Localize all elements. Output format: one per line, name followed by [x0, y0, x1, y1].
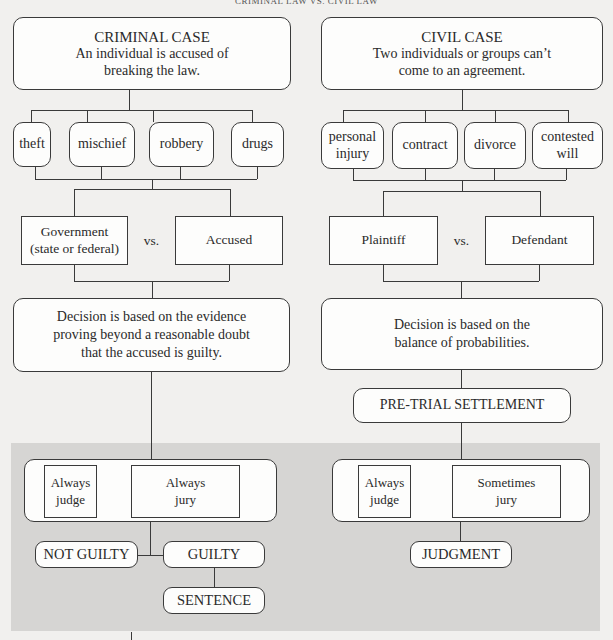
connector — [425, 169, 426, 180]
criminal-judge-box: Always judge — [44, 465, 97, 518]
pretrial-label: PRE-TRIAL SETTLEMENT — [380, 397, 545, 414]
outcome-not-guilty: NOT GUILTY — [35, 541, 138, 568]
judge-label: judge — [370, 492, 399, 508]
connector — [35, 167, 36, 179]
criminal-jury-box: Always jury — [131, 465, 240, 518]
civil-judge-box: Always judge — [358, 465, 411, 518]
connector — [180, 167, 181, 179]
connector — [353, 180, 566, 181]
connector — [31, 110, 252, 111]
connector — [461, 370, 462, 388]
connector — [568, 110, 569, 122]
connector — [214, 568, 215, 587]
connector — [74, 189, 230, 190]
outcome-sentence: SENTENCE — [163, 587, 265, 614]
category-theft: theft — [13, 122, 51, 167]
decision-text: balance of probabilities. — [395, 334, 530, 352]
category-label: personal — [329, 129, 376, 146]
connector — [460, 522, 461, 541]
connector — [383, 191, 540, 192]
civil-case-heading: CIVIL CASE — [421, 28, 503, 46]
connector — [353, 169, 354, 180]
civil-case-desc-2: come to an agreement. — [399, 63, 526, 80]
connector — [383, 191, 384, 216]
outcome-judgment: JUDGMENT — [410, 541, 512, 568]
category-label: theft — [19, 136, 45, 153]
decision-text: that the accused is guilty. — [81, 344, 222, 362]
outcome-label: JUDGMENT — [422, 546, 500, 563]
connector — [461, 423, 462, 459]
connector — [152, 179, 153, 189]
connector — [35, 179, 257, 180]
connector — [383, 265, 384, 281]
party-defendant: Defendant — [485, 216, 594, 265]
connector — [152, 281, 153, 298]
party-label: Government — [41, 224, 108, 241]
category-contract: contract — [392, 122, 458, 169]
criminal-decision-box: Decision is based on the evidence provin… — [13, 298, 290, 372]
category-personal-injury: personal injury — [321, 122, 384, 169]
category-robbery: robbery — [149, 122, 214, 167]
connector — [462, 90, 463, 110]
connector — [494, 169, 495, 180]
party-label: Accused — [206, 232, 252, 249]
judge-label: Always — [365, 475, 405, 491]
judge-label: judge — [56, 492, 85, 508]
pretrial-settlement-box: PRE-TRIAL SETTLEMENT — [353, 388, 571, 423]
connector — [87, 110, 88, 122]
criminal-case-desc-1: An individual is accused of — [75, 46, 228, 63]
outcome-label: NOT GUILTY — [44, 546, 130, 563]
connector — [425, 110, 426, 122]
connector — [257, 167, 258, 179]
connector — [540, 191, 541, 216]
category-label: contested — [541, 129, 594, 146]
category-label: robbery — [160, 136, 204, 153]
connector — [31, 110, 32, 122]
category-label: will — [557, 146, 579, 163]
outcome-label: SENTENCE — [177, 592, 251, 609]
decision-text: proving beyond a reasonable doubt — [53, 326, 250, 344]
vs-label: vs. — [438, 216, 485, 265]
outcome-label: GUILTY — [188, 546, 241, 563]
jury-label: jury — [496, 492, 517, 508]
outcome-guilty: GUILTY — [163, 541, 265, 568]
vs-label: vs. — [128, 216, 175, 265]
category-label: injury — [336, 146, 369, 163]
party-plaintiff: Plaintiff — [329, 216, 438, 265]
connector — [462, 180, 463, 191]
connector — [252, 110, 253, 122]
civil-case-box: CIVIL CASE Two individuals or groups can… — [321, 17, 603, 90]
criminal-case-desc-2: breaking the law. — [104, 63, 200, 80]
connector — [74, 265, 75, 281]
category-divorce: divorce — [464, 122, 526, 169]
party-label: (state or federal) — [30, 241, 119, 258]
connector — [153, 110, 154, 122]
category-mischief: mischief — [69, 122, 135, 167]
diagram-title: CRIMINAL LAW VS. CIVIL LAW — [150, 0, 463, 6]
category-label: divorce — [474, 137, 516, 154]
connector — [343, 110, 344, 122]
party-label: Defendant — [511, 232, 567, 249]
civil-decision-box: Decision is based on the balance of prob… — [321, 298, 603, 370]
civil-jury-box: Sometimes jury — [452, 465, 561, 518]
judge-label: Always — [51, 475, 91, 491]
connector — [539, 265, 540, 281]
connector — [129, 90, 130, 110]
category-label: drugs — [242, 136, 273, 153]
connector — [495, 110, 496, 122]
decision-text: Decision is based on the — [394, 316, 530, 334]
category-label: mischief — [78, 136, 126, 153]
connector — [461, 281, 462, 298]
party-label: Plaintiff — [361, 232, 405, 249]
jury-label: Always — [166, 475, 206, 491]
connector — [343, 110, 569, 111]
connector — [150, 522, 151, 555]
decision-text: Decision is based on the evidence — [57, 308, 246, 326]
category-drugs: drugs — [231, 122, 284, 167]
connector — [74, 189, 75, 216]
criminal-case-box: CRIMINAL CASE An individual is accused o… — [13, 17, 291, 90]
jury-label: jury — [175, 492, 196, 508]
category-label: contract — [402, 137, 447, 154]
party-government: Government (state or federal) — [21, 216, 128, 265]
jury-label: Sometimes — [478, 475, 536, 491]
